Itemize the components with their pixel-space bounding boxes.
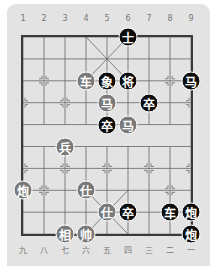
red-piece-车[interactable]: 车 [77,71,96,90]
red-piece-仕[interactable]: 仕 [98,203,117,222]
black-piece-卒[interactable]: 卒 [119,203,138,222]
file-label-top: 6 [121,14,135,23]
file-label-top: 4 [79,14,93,23]
black-piece-士[interactable]: 士 [119,28,138,47]
file-label-top: 2 [37,14,51,23]
file-label-top: 3 [58,14,72,23]
file-label-bottom: 九 [16,244,30,255]
file-label-top: 5 [100,14,114,23]
red-piece-帅[interactable]: 帅 [77,225,96,244]
file-label-top: 1 [16,14,30,23]
red-piece-相[interactable]: 相 [56,225,75,244]
black-piece-车[interactable]: 车 [161,203,180,222]
black-piece-炮[interactable]: 炮 [182,225,201,244]
file-label-top: 8 [163,14,177,23]
file-label-bottom: 三 [142,244,156,255]
file-label-bottom: 五 [100,244,114,255]
black-piece-将[interactable]: 将 [119,71,138,90]
red-piece-兵[interactable]: 兵 [56,137,75,156]
black-piece-卒[interactable]: 卒 [140,93,159,112]
black-piece-卒[interactable]: 卒 [98,115,117,134]
red-piece-仕[interactable]: 仕 [77,181,96,200]
red-piece-马[interactable]: 马 [119,115,138,134]
file-label-bottom: 七 [58,244,72,255]
file-label-top: 9 [184,14,198,23]
file-label-top: 7 [142,14,156,23]
file-label-bottom: 四 [121,244,135,255]
red-piece-马[interactable]: 马 [98,93,117,112]
red-piece-炮[interactable]: 炮 [14,181,33,200]
black-piece-马[interactable]: 马 [182,71,201,90]
file-label-bottom: 八 [37,244,51,255]
black-piece-炮[interactable]: 炮 [182,203,201,222]
file-label-bottom: 一 [184,244,198,255]
file-label-bottom: 二 [163,244,177,255]
file-label-bottom: 六 [79,244,93,255]
black-piece-象[interactable]: 象 [98,71,117,90]
